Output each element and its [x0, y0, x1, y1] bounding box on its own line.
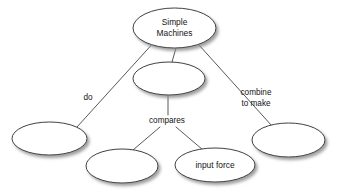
- connector-layer: [77, 45, 272, 150]
- edge-label-combine-to-make-line1: combine: [241, 88, 272, 97]
- node-ellipse-bottom-center-blank: [86, 149, 158, 183]
- connector-compares-to-bottom-center: [133, 127, 160, 150]
- node-input-force[interactable]: input force: [175, 148, 255, 182]
- node-layer: SimpleMachinesinput force: [12, 8, 325, 183]
- connector-root-to-right: [199, 45, 272, 126]
- concept-map-canvas: SimpleMachinesinput force docombineto ma…: [0, 0, 338, 196]
- node-label-input-force: input force: [195, 160, 234, 170]
- node-ellipse-right-blank: [252, 123, 325, 157]
- edge-label-combine-to-make-line2: to make: [241, 99, 271, 108]
- concept-map-diagram: SimpleMachinesinput force docombineto ma…: [0, 0, 338, 196]
- node-label-simple-machines-line2: Machines: [157, 28, 193, 38]
- connector-root-to-middle: [172, 48, 176, 62]
- node-right-blank[interactable]: [252, 123, 325, 157]
- node-left-blank[interactable]: [12, 122, 87, 155]
- connector-compares-to-input-force: [176, 127, 203, 150]
- node-ellipse-left-blank: [12, 122, 87, 155]
- node-ellipse-middle-blank: [133, 62, 205, 95]
- node-middle-blank[interactable]: [133, 62, 205, 95]
- edge-label-compares: compares: [149, 116, 185, 125]
- node-simple-machines[interactable]: SimpleMachines: [133, 8, 216, 48]
- node-label-simple-machines-line1: Simple: [162, 17, 188, 27]
- node-bottom-center-blank[interactable]: [86, 149, 158, 183]
- edge-label-do: do: [83, 93, 93, 102]
